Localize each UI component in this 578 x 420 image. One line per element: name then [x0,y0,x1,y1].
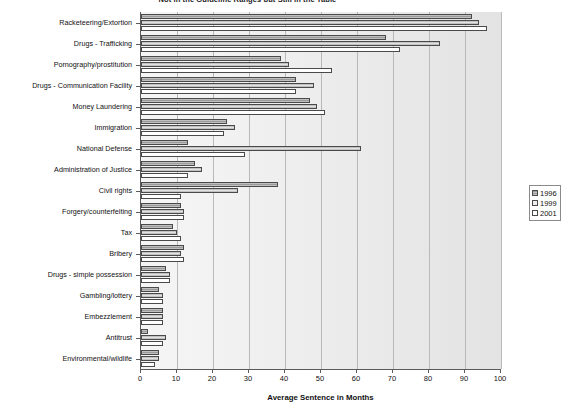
y-axis-labels: Racketeering/ExtortionDrugs - Traffickin… [0,12,136,369]
gridline [501,12,502,369]
bar-1996 [141,14,472,19]
bar-group [141,264,501,285]
bar-2001 [141,173,188,178]
bar-1996 [141,287,159,292]
x-axis-tick [320,369,321,373]
bar-1996 [141,182,278,187]
bar-1996 [141,266,166,271]
bar-2001 [141,299,163,304]
y-axis-tick [136,212,140,213]
bar-chart: Not in the Guideline Ranges but Still in… [0,0,578,420]
x-axis-tick [356,369,357,373]
bar-1999 [141,62,289,67]
y-axis-tick [136,275,140,276]
y-axis-tick [136,86,140,87]
bar-2001 [141,194,181,199]
bar-1996 [141,308,163,313]
x-axis-tick-label: 90 [449,374,479,384]
x-axis-tick-label: 60 [341,374,371,384]
y-axis-tick [136,23,140,24]
legend: 199619992001 [529,185,561,221]
bar-group [141,12,501,33]
y-axis-label: Racketeering/Extortion [0,19,132,27]
bar-group [141,285,501,306]
bar-group [141,54,501,75]
bar-group [141,306,501,327]
bar-2001 [141,320,163,325]
bar-group [141,222,501,243]
bar-group [141,117,501,138]
y-axis-tick [136,65,140,66]
y-axis-label: Forgery/counterfeiting [0,208,132,216]
y-axis-tick [136,338,140,339]
x-axis-tick [392,369,393,373]
bar-group [141,96,501,117]
bar-1999 [141,335,166,340]
bar-1996 [141,203,181,208]
bar-group [141,201,501,222]
bar-1999 [141,314,163,319]
x-axis-tick [464,369,465,373]
bar-group [141,243,501,264]
bar-group [141,138,501,159]
bar-2001 [141,110,325,115]
y-axis-label: Drugs - Communication Facility [0,82,132,90]
bar-1999 [141,209,184,214]
bar-1999 [141,167,202,172]
y-axis-label: National Defense [0,145,132,153]
x-axis-tick [212,369,213,373]
bar-1999 [141,293,163,298]
bar-2001 [141,47,400,52]
bar-1996 [141,329,148,334]
y-axis-tick [136,149,140,150]
legend-swatch-icon [532,200,538,206]
y-axis-label: Bribery [0,250,132,258]
bar-2001 [141,278,170,283]
bar-1996 [141,98,310,103]
y-axis-tick [136,170,140,171]
x-axis-tick [176,369,177,373]
bar-1996 [141,140,188,145]
x-axis-tick-label: 100 [485,374,515,384]
y-axis-label: Drugs - Trafficking [0,40,132,48]
legend-label: 2001 [540,209,557,218]
x-axis-tick-label: 80 [413,374,443,384]
bar-2001 [141,26,487,31]
bar-1996 [141,161,195,166]
y-axis-label: Embezzlement [0,313,132,321]
y-axis-tick [136,317,140,318]
bar-2001 [141,68,332,73]
bar-2001 [141,362,155,367]
x-axis-tick [428,369,429,373]
y-axis-tick [136,107,140,108]
y-axis-label: Environmental/wildlife [0,355,132,363]
y-axis-label: Money Laundering [0,103,132,111]
x-axis-tick-label: 40 [269,374,299,384]
y-axis-label: Gambling/lottery [0,292,132,300]
legend-swatch-icon [532,210,538,216]
bar-1999 [141,188,238,193]
y-axis-tick [136,254,140,255]
bar-1996 [141,77,296,82]
bar-1996 [141,56,281,61]
y-axis-tick [136,191,140,192]
legend-item[interactable]: 1999 [532,198,557,208]
y-axis-label: Tax [0,229,132,237]
bar-1996 [141,350,159,355]
bar-1999 [141,356,159,361]
bar-1996 [141,35,386,40]
y-axis-label: Antitrust [0,334,132,342]
y-axis-label: Immigration [0,124,132,132]
bar-2001 [141,257,184,262]
bar-1999 [141,272,170,277]
bar-group [141,180,501,201]
x-axis-tick [500,369,501,373]
bar-2001 [141,152,245,157]
y-axis-tick [136,296,140,297]
bar-2001 [141,89,296,94]
legend-swatch-icon [532,190,538,196]
legend-item[interactable]: 2001 [532,208,557,218]
legend-item[interactable]: 1996 [532,188,557,198]
x-axis-tick-label: 70 [377,374,407,384]
bar-1999 [141,230,177,235]
